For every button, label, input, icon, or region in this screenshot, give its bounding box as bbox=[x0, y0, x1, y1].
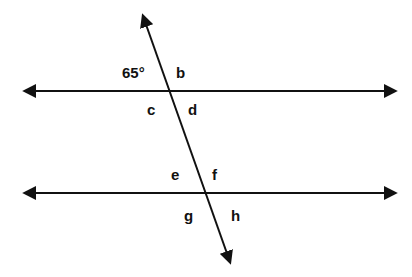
angle-f-label: f bbox=[212, 167, 217, 182]
transversal-line bbox=[143, 16, 230, 262]
angle-c-label: c bbox=[147, 102, 155, 117]
angle-d-label: d bbox=[188, 102, 197, 117]
angle-h-label: h bbox=[231, 208, 240, 223]
angle-b-label: b bbox=[176, 65, 185, 80]
angle-g-label: g bbox=[184, 208, 193, 223]
lines-svg bbox=[0, 0, 412, 277]
diagram-canvas: 65° b c d e f g h bbox=[0, 0, 412, 277]
angle-65-label: 65° bbox=[122, 65, 145, 80]
angle-e-label: e bbox=[171, 167, 179, 182]
